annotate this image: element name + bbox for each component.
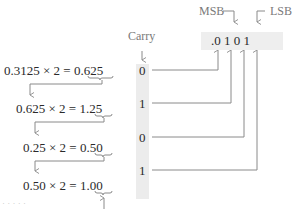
carry-digit-3: 0 <box>139 131 146 145</box>
msb-label: MSB <box>199 5 224 18</box>
step-1-frac: .625 <box>80 63 103 78</box>
step-2-equation: 0.625 × 2 = 1.25 <box>16 102 102 116</box>
carry-digit-4: 1 <box>139 164 146 178</box>
feedback-arrow-2 <box>35 118 104 133</box>
feedback-arrow-3 <box>35 157 104 171</box>
bit-line-4 <box>152 50 257 170</box>
lsb-label: LSB <box>270 5 292 18</box>
bit-line-1 <box>152 50 218 70</box>
carry-label: Carry <box>128 30 155 43</box>
msb-pointer <box>223 11 234 22</box>
step-3-frac: .50 <box>86 140 102 155</box>
step-1-expression: 0.3125 × 2 = <box>4 63 74 78</box>
binary-result: .0 1 0 1 <box>211 34 250 48</box>
step-4-equation: 0.50 × 2 = 1.00 <box>23 179 103 193</box>
step-4-frac: .00 <box>86 178 102 193</box>
feedback-arrow-1 <box>30 80 102 95</box>
bit-line-3 <box>152 50 244 137</box>
step-2-frac: .25 <box>86 101 102 116</box>
carry-digit-1: 0 <box>139 64 146 78</box>
carry-digit-2: 1 <box>139 97 146 111</box>
bit-line-2 <box>152 50 231 103</box>
step-2-expression: 0.625 × 2 = <box>16 101 79 116</box>
faint-footer-text: · · · · · <box>2 198 26 208</box>
step-3-expression: 0.25 × 2 = <box>23 140 80 155</box>
step-1-equation: 0.3125 × 2 = 0.625 <box>4 64 103 78</box>
step-4-expression: 0.50 × 2 = <box>23 178 80 193</box>
lsb-pointer <box>257 11 265 22</box>
step-3-equation: 0.25 × 2 = 0.50 <box>23 141 103 155</box>
